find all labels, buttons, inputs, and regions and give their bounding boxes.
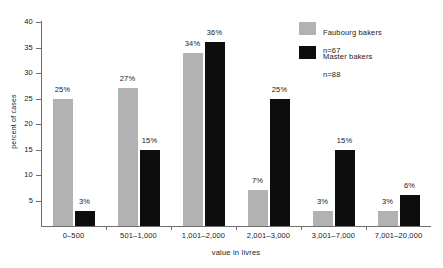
legend-item-master-bakers: Master bakers n=88 bbox=[299, 45, 429, 67]
y-axis-tick-mark bbox=[36, 124, 41, 125]
y-axis-tick-label: 35 bbox=[24, 43, 33, 52]
bar bbox=[378, 211, 398, 226]
y-axis-tick-label: 40 bbox=[24, 17, 33, 26]
x-axis-tick-mark bbox=[236, 226, 237, 230]
bar bbox=[118, 88, 138, 226]
bar-value-label: 36% bbox=[199, 28, 231, 37]
y-axis-title: percent of cases bbox=[10, 72, 17, 172]
legend-label-master: Master bakers bbox=[323, 52, 372, 61]
bar-value-label: 25% bbox=[47, 85, 79, 94]
y-axis-tick-label: 20 bbox=[24, 119, 33, 128]
y-axis-tick-mark bbox=[36, 175, 41, 176]
y-axis-tick-label: 25 bbox=[24, 94, 33, 103]
x-axis-tick-label: 2,001–3,000 bbox=[236, 231, 301, 240]
x-axis-tick-mark bbox=[171, 226, 172, 230]
x-axis-tick-mark bbox=[106, 226, 107, 230]
bar bbox=[75, 211, 95, 226]
y-axis-tick-label: 10 bbox=[24, 170, 33, 179]
x-axis-tick-label: 7,001–20,000 bbox=[366, 231, 431, 240]
bar bbox=[140, 150, 160, 227]
bar bbox=[183, 53, 203, 226]
x-axis-tick-mark bbox=[366, 226, 367, 230]
x-axis-tick-label: 501–1,000 bbox=[106, 231, 171, 240]
bar bbox=[205, 42, 225, 226]
y-axis-tick-label: 30 bbox=[24, 68, 33, 77]
legend: Faubourg bakers n=67 Master bakers n=88 bbox=[299, 21, 429, 69]
y-axis-tick-mark bbox=[36, 48, 41, 49]
legend-swatch-icon-faubourg bbox=[299, 22, 316, 35]
x-axis-tick-label: 0–500 bbox=[41, 231, 106, 240]
y-axis-tick-mark bbox=[36, 150, 41, 151]
x-axis-tick-label: 3,001–7,000 bbox=[301, 231, 366, 240]
y-axis-tick-mark bbox=[36, 73, 41, 74]
bar bbox=[248, 190, 268, 226]
legend-label-faubourg: Faubourg bakers bbox=[323, 28, 382, 37]
y-axis-tick-mark bbox=[36, 22, 41, 23]
bar-value-label: 15% bbox=[134, 136, 166, 145]
y-axis-tick-label: 5 bbox=[29, 196, 33, 205]
bar-value-label: 15% bbox=[329, 136, 361, 145]
bar-value-label: 3% bbox=[69, 197, 101, 206]
y-axis-tick-mark bbox=[36, 201, 41, 202]
legend-item-faubourg-bakers: Faubourg bakers n=67 bbox=[299, 21, 429, 43]
bar bbox=[313, 211, 333, 226]
bar-value-label: 6% bbox=[394, 181, 426, 190]
legend-swatch-icon-master bbox=[299, 46, 316, 59]
bar-chart: percent of cases value in livres 25%3%27… bbox=[0, 0, 443, 268]
bar bbox=[335, 150, 355, 227]
y-axis-tick-mark bbox=[36, 99, 41, 100]
bar bbox=[270, 99, 290, 227]
bar bbox=[53, 99, 73, 227]
bar bbox=[400, 195, 420, 226]
x-axis-tick-mark bbox=[301, 226, 302, 230]
x-axis-title: value in livres bbox=[41, 248, 431, 257]
legend-count-master: n=88 bbox=[323, 70, 341, 79]
x-axis-tick-label: 1,001–2,000 bbox=[171, 231, 236, 240]
y-axis-tick-label: 15 bbox=[24, 145, 33, 154]
bar-value-label: 25% bbox=[264, 85, 296, 94]
bar-value-label: 27% bbox=[112, 74, 144, 83]
